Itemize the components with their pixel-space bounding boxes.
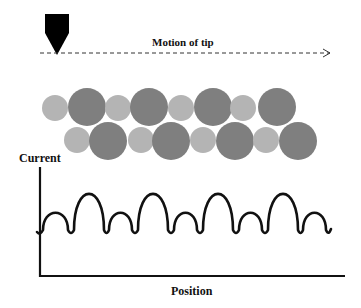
stm-tip-icon (45, 14, 69, 55)
small-atom (190, 127, 216, 153)
motion-arrow (40, 49, 330, 57)
small-atom (42, 95, 68, 121)
large-atom (68, 88, 106, 126)
large-atom (216, 122, 254, 160)
small-atom (168, 95, 194, 121)
small-atom (105, 95, 131, 121)
current-curve (37, 194, 331, 234)
small-atom (253, 127, 279, 153)
plot-axes (40, 167, 345, 276)
motion-of-tip-label: Motion of tip (152, 36, 214, 48)
large-atom (279, 122, 317, 160)
large-atom (89, 122, 127, 160)
small-atom (230, 95, 256, 121)
large-atom (258, 88, 296, 126)
large-atom (130, 88, 168, 126)
x-axis-label: Position (171, 284, 212, 299)
atom-lattice (42, 88, 317, 160)
small-atom (128, 127, 154, 153)
large-atom (152, 122, 190, 160)
y-axis-label: Current (19, 151, 61, 166)
large-atom (194, 88, 232, 126)
small-atom (64, 127, 90, 153)
